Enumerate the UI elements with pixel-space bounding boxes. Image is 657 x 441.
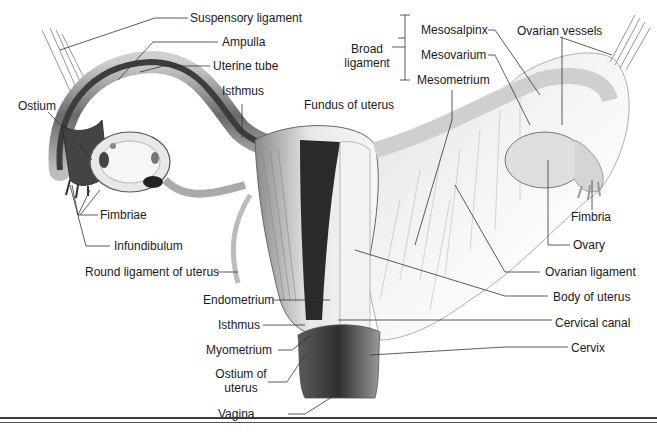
label-ovary: Ovary	[573, 238, 605, 252]
label-infundibulum: Infundibulum	[114, 239, 183, 253]
label-cervix: Cervix	[571, 341, 605, 355]
label-isthmus-tube: Isthmus	[222, 84, 264, 98]
label-ampulla: Ampulla	[222, 35, 265, 49]
label-ostium: Ostium	[18, 99, 56, 113]
label-mesovarium: Mesovarium	[421, 48, 486, 62]
label-mesosalpinx: Mesosalpinx	[421, 23, 488, 37]
label-broad-ligament-line1: Broad	[351, 42, 383, 56]
bottom-rule	[0, 417, 657, 419]
label-fimbria: Fimbria	[571, 210, 611, 224]
vagina-shape	[298, 325, 380, 398]
label-fimbriae: Fimbriae	[100, 208, 147, 222]
label-cervical-canal: Cervical canal	[555, 316, 630, 330]
label-broad-ligament: Broad ligament	[342, 42, 392, 70]
label-body-of-uterus: Body of uterus	[553, 290, 630, 304]
label-fundus: Fundus of uterus	[304, 98, 394, 112]
label-isthmus-uterus: Isthmus	[218, 318, 260, 332]
label-ovarian-vessels: Ovarian vessels	[517, 24, 602, 38]
label-ostium-of-uterus-line2: uterus	[224, 381, 257, 395]
label-ostium-of-uterus-line1: Ostium of	[215, 367, 266, 381]
anatomy-illustration	[0, 0, 657, 441]
bottom-rule-thin	[0, 422, 657, 423]
label-broad-ligament-line2: ligament	[344, 56, 389, 70]
label-myometrium: Myometrium	[206, 343, 272, 357]
label-endometrium: Endometrium	[203, 293, 274, 307]
label-uterine-tube: Uterine tube	[213, 59, 278, 73]
label-ovarian-ligament: Ovarian ligament	[545, 265, 636, 279]
label-suspensory-ligament: Suspensory ligament	[190, 11, 302, 25]
label-round-ligament: Round ligament of uterus	[85, 265, 219, 279]
label-mesometrium: Mesometrium	[417, 73, 490, 87]
left-ovary-shape	[90, 132, 245, 194]
label-ostium-of-uterus: Ostium of uterus	[212, 367, 270, 395]
round-ligament-shape	[233, 195, 250, 283]
